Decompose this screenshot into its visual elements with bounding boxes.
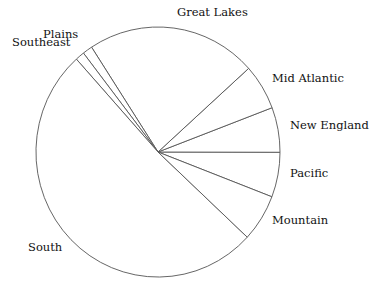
label-mountain: Mountain bbox=[272, 213, 329, 227]
label-south: South bbox=[28, 240, 63, 254]
pie-chart: Great LakesMid AtlanticNew EnglandPacifi… bbox=[0, 0, 372, 287]
label-mid-atlantic: Mid Atlantic bbox=[272, 71, 344, 85]
label-plains: Plains bbox=[43, 27, 78, 41]
label-pacific: Pacific bbox=[290, 166, 328, 180]
label-great-lakes: Great Lakes bbox=[177, 5, 248, 19]
pie-slices bbox=[36, 27, 280, 277]
label-new-england: New England bbox=[290, 118, 369, 132]
